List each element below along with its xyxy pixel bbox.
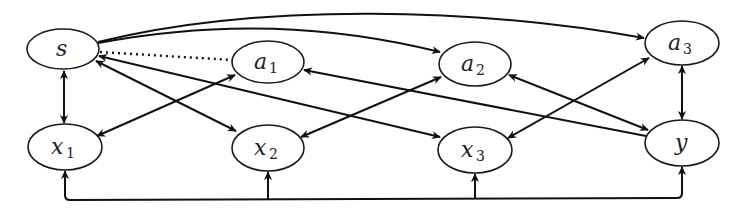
edge-x2-a2 bbox=[301, 77, 441, 137]
node-a1-subscript: 1 bbox=[269, 60, 278, 76]
causal-diagram: s a 1 a 2 a 3 x 1 x 2 x 3 y bbox=[0, 0, 739, 215]
node-y-label: y bbox=[674, 130, 688, 155]
node-x2-subscript: 2 bbox=[269, 146, 278, 162]
node-a2-subscript: 2 bbox=[476, 62, 485, 78]
node-a3: a 3 bbox=[645, 21, 719, 65]
node-a3-label: a bbox=[668, 30, 681, 55]
node-s: s bbox=[27, 29, 99, 69]
node-s-label: s bbox=[56, 36, 67, 61]
edge-x3-a3 bbox=[508, 58, 649, 138]
node-a2-label: a bbox=[461, 51, 474, 76]
node-a3-subscript: 3 bbox=[683, 41, 692, 57]
node-y: y bbox=[645, 120, 719, 166]
node-x3: x 3 bbox=[438, 127, 512, 173]
node-x1-subscript: 1 bbox=[66, 145, 75, 161]
edges bbox=[64, 14, 682, 200]
node-x2: x 2 bbox=[232, 125, 304, 171]
node-a1: a 1 bbox=[232, 41, 304, 83]
edge-a2-y bbox=[509, 75, 648, 130]
node-x3-label: x bbox=[461, 137, 474, 162]
edge-s-a1-dotted bbox=[100, 52, 232, 60]
bus-line bbox=[65, 167, 682, 200]
node-a2: a 2 bbox=[439, 42, 511, 86]
node-x3-subscript: 3 bbox=[476, 148, 485, 164]
node-x2-label: x bbox=[254, 135, 267, 160]
node-x1-label: x bbox=[51, 134, 64, 159]
node-x1: x 1 bbox=[28, 124, 102, 170]
node-a1-label: a bbox=[254, 49, 267, 74]
edge-x1-a1 bbox=[97, 75, 235, 136]
